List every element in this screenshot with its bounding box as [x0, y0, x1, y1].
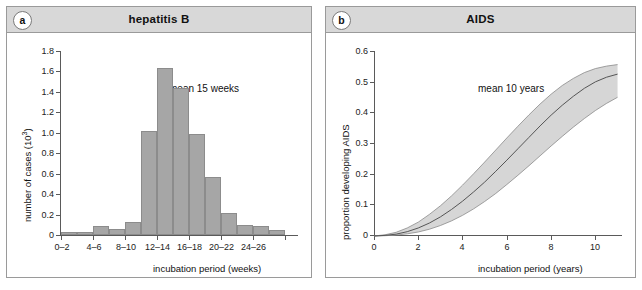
panel-b-curves: [374, 51, 622, 237]
bar-14-16: [173, 88, 189, 235]
panel-a-x-tick: [221, 236, 222, 240]
panel-a-x-tick-label: 12–14: [141, 242, 174, 252]
panel-b-x-tick-label: 8: [542, 242, 560, 252]
panel-b-y-tick-label: 0.6: [344, 46, 368, 56]
panel-a-y-tick: [56, 133, 60, 134]
bar-20-22: [221, 213, 237, 235]
bar-12-14: [157, 68, 173, 235]
panel-a-y-tick: [56, 174, 60, 175]
panel-b-y-tick-label: 0.3: [344, 138, 368, 148]
panel-a-y-tick-label: 1.2: [28, 107, 54, 117]
panel-a-x-tick: [157, 236, 158, 240]
panel-a-title: hepatitis B: [7, 13, 311, 25]
bar-10-12: [141, 131, 157, 235]
panel-a-y-tick-label: 1.0: [28, 128, 54, 138]
panel-hepatitis-b: a hepatitis B number of cases (103) incu…: [6, 6, 312, 278]
bar-8-10: [125, 222, 141, 235]
panel-a-x-tick: [253, 236, 254, 240]
panel-b-x-tick-label: 4: [453, 242, 471, 252]
panel-a-x-tick-label: 16–18: [173, 242, 206, 252]
panel-aids: b AIDS proportion developing AIDS incuba…: [325, 6, 636, 278]
panel-a-x-axis: [60, 235, 298, 236]
panel-a-y-tick-label: 0.8: [28, 148, 54, 158]
bar-24-26: [253, 226, 269, 235]
panel-b-plot-area: 0 0.1 0.2 0.3 0.4 0.5 0.6 0 2 4 6 8: [374, 51, 622, 236]
panel-a-x-tick-label: 0–2: [48, 242, 76, 252]
bar-16-18: [189, 134, 205, 235]
panel-a-y-tick: [56, 51, 60, 52]
panel-b-y-tick-label: 0.1: [344, 199, 368, 209]
panel-b-x-tick-label: 2: [409, 242, 427, 252]
panel-a-x-tick-label: 20–22: [205, 242, 238, 252]
panel-b-x-tick-label: 0: [365, 242, 383, 252]
panel-a-y-tick: [56, 215, 60, 216]
bar-22-24: [237, 225, 253, 235]
panel-a-x-tick-label: 24–26: [237, 242, 270, 252]
panel-a-x-tick-label: 8–10: [111, 242, 141, 252]
panel-a-y-axis: [60, 51, 61, 236]
figure-root: a hepatitis B number of cases (103) incu…: [0, 0, 642, 290]
panel-a-x-tick: [93, 236, 94, 240]
panel-b-x-tick-label: 10: [586, 242, 604, 252]
panel-a-y-tick: [56, 71, 60, 72]
panel-b-y-tick-label: 0: [344, 230, 368, 240]
panel-b-title: AIDS: [326, 13, 635, 25]
panel-a-y-tick-label: 0.6: [28, 169, 54, 179]
panel-a-x-tick: [189, 236, 190, 240]
panel-a-y-tick: [56, 235, 60, 236]
panel-a-y-tick: [56, 153, 60, 154]
panel-a-x-tick: [285, 236, 286, 240]
bar-6-8: [109, 229, 125, 235]
panel-b-y-tick-label: 0.2: [344, 169, 368, 179]
panel-a-y-tick-label: 1.4: [28, 87, 54, 97]
panel-a-x-tick: [125, 236, 126, 240]
bar-0-2: [61, 232, 77, 235]
panel-a-y-tick: [56, 112, 60, 113]
panel-b-x-tick-label: 6: [498, 242, 516, 252]
bar-4-6: [93, 226, 109, 235]
panel-a-x-tick-label: 4–6: [80, 242, 108, 252]
panel-a-x-tick: [61, 236, 62, 240]
panel-b-y-tick-label: 0.5: [344, 77, 368, 87]
bar-26-28: [269, 230, 285, 235]
panel-b-y-tick-label: 0.4: [344, 107, 368, 117]
panel-a-y-tick-label: 1.6: [28, 66, 54, 76]
panel-a-y-tick: [56, 194, 60, 195]
panel-a-x-axis-title: incubation period (weeks): [153, 263, 261, 274]
panel-a-y-tick-label: 1.8: [28, 46, 54, 56]
panel-a-y-tick-label: 0.2: [28, 210, 54, 220]
panel-a-plot-area: 0 0.2 0.4 0.6 0.8 1.0 1.2 1.4 1.6 1.8: [60, 51, 298, 236]
panel-a-y-tick-label: 0: [28, 230, 54, 240]
bar-18-20: [205, 177, 221, 235]
bar-2-4: [77, 232, 93, 235]
panel-b-x-axis-title: incubation period (years): [478, 263, 583, 274]
panel-a-y-tick-label: 0.4: [28, 189, 54, 199]
panel-a-y-tick: [56, 92, 60, 93]
